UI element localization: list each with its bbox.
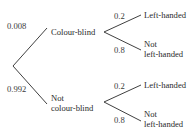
- prob-colour-blind: 0.008: [7, 21, 26, 31]
- label-not-colour-blind-line1: Not: [51, 93, 64, 103]
- label-cb-not-left-handed-line1: Not: [144, 39, 157, 49]
- prob-cb-left-handed: 0.2: [114, 11, 125, 21]
- prob-not-colour-blind: 0.992: [7, 84, 26, 94]
- label-cb-left-handed: Left-handed: [144, 10, 186, 20]
- label-not-colour-blind-line2: colour-blind: [51, 103, 93, 113]
- label-colour-blind: Colour-blind: [51, 27, 95, 37]
- label-ncb-not-left-handed-line1: Not: [144, 109, 157, 119]
- probability-tree-diagram: 0.008 Colour-blind 0.992 Not colour-blin…: [0, 0, 194, 130]
- branch-colour-blind: [13, 28, 47, 66]
- prob-ncb-left-handed: 0.2: [114, 81, 125, 91]
- label-ncb-not-left-handed-line2: left-handed: [144, 119, 183, 129]
- label-cb-not-left-handed-line2: left-handed: [144, 49, 183, 59]
- prob-cb-not-left-handed: 0.8: [114, 45, 125, 55]
- label-ncb-left-handed: Left-handed: [144, 80, 186, 90]
- prob-ncb-not-left-handed: 0.8: [114, 115, 125, 125]
